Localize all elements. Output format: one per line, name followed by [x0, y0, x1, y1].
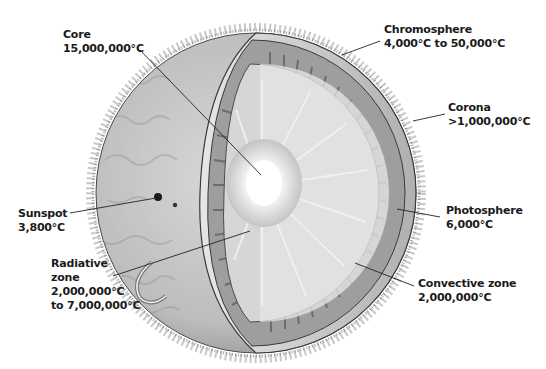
label-photosphere-name: Photosphere	[446, 204, 523, 218]
label-convective-name: Convective zone	[418, 277, 516, 291]
label-sunspot-value: 3,800°C	[18, 221, 67, 235]
label-radiative-value2: to 7,000,000°C	[51, 299, 140, 313]
label-chromosphere-value: 4,000°C to 50,000°C	[384, 37, 505, 51]
label-core-value: 15,000,000°C	[63, 42, 144, 56]
leader-line-chromosphere	[342, 41, 380, 55]
label-radiative-value: 2,000,000°C	[51, 285, 140, 299]
label-core-name: Core	[63, 28, 144, 42]
label-sunspot: Sunspot 3,800°C	[18, 207, 67, 235]
label-photosphere-value: 6,000°C	[446, 218, 523, 232]
label-convective-zone: Convective zone 2,000,000°C	[418, 277, 516, 305]
label-core: Core 15,000,000°C	[63, 28, 144, 56]
leader-line-corona	[413, 114, 445, 121]
label-corona-name: Corona	[448, 101, 530, 115]
label-corona: Corona >1,000,000°C	[448, 101, 530, 129]
label-chromosphere-name: Chromosphere	[384, 23, 505, 37]
label-convective-value: 2,000,000°C	[418, 291, 516, 305]
label-radiative-name: Radiative	[51, 257, 140, 271]
label-photosphere: Photosphere 6,000°C	[446, 204, 523, 232]
label-corona-value: >1,000,000°C	[448, 115, 530, 129]
label-chromosphere: Chromosphere 4,000°C to 50,000°C	[384, 23, 505, 51]
label-sunspot-name: Sunspot	[18, 207, 67, 221]
label-radiative-name2: zone	[51, 271, 140, 285]
label-radiative-zone: Radiative zone 2,000,000°C to 7,000,000°…	[51, 257, 140, 313]
